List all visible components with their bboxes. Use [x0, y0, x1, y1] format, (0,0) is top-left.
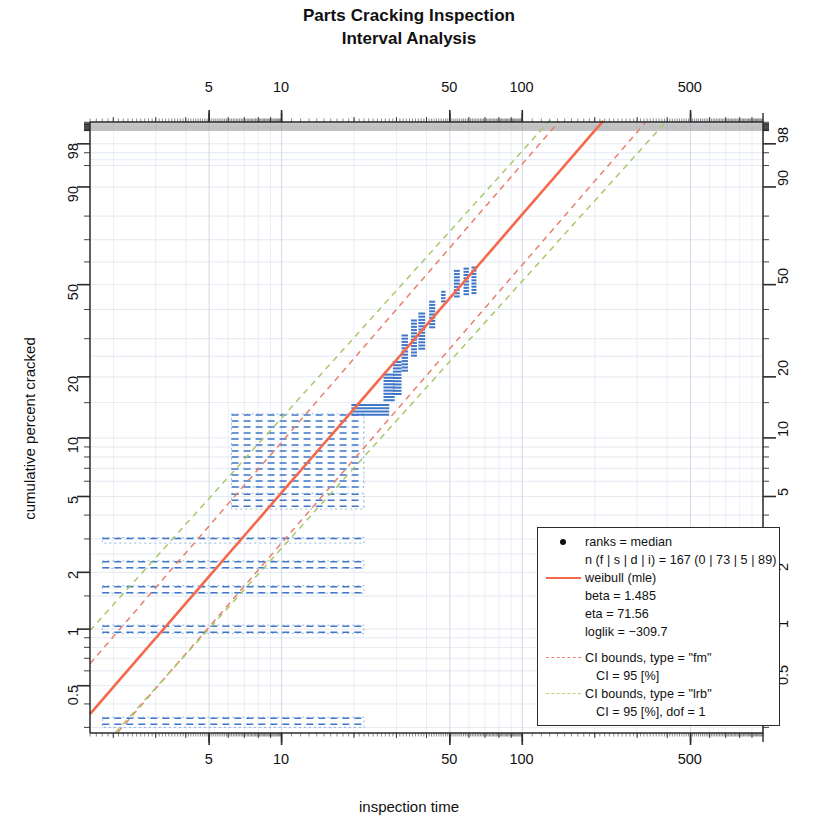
x-tick-label-top-10: 10: [273, 79, 289, 95]
legend-ranks-label: ranks = median: [585, 535, 672, 549]
y-tick-label-right-50: 50: [775, 229, 791, 284]
x-tick-label-top-500: 500: [678, 79, 702, 95]
y-tick-label-98: 98: [65, 143, 81, 198]
legend-loglik-label: loglik = −309.7: [585, 625, 668, 639]
legend-rows: ranks = median n (f | s | d | i) = 167 (…: [538, 528, 779, 725]
x-tick-label-top-100: 100: [509, 79, 533, 95]
x-tick-label-10: 10: [273, 751, 289, 767]
legend-sample-size-label: n (f | s | d | i) = 167 (0 | 73 | 5 | 89…: [585, 553, 776, 567]
legend-ci-fm-label: CI bounds, type = "fm": [585, 651, 712, 665]
y-tick-label-5: 5: [65, 496, 81, 551]
legend-ci-lrb-line-icon: [546, 693, 581, 694]
x-tick-label-top-50: 50: [441, 79, 457, 95]
legend-ci-fm-value: CI = 95 [%]: [596, 669, 659, 683]
legend-point-marker-icon: [560, 539, 566, 545]
y-tick-label-20: 20: [65, 376, 81, 431]
y-tick-label-right-5: 5: [775, 441, 791, 496]
x-tick-label-top-5: 5: [205, 79, 213, 95]
y-tick-label-10: 10: [65, 437, 81, 492]
x-tick-label-50: 50: [441, 751, 457, 767]
x-tick-label-500: 500: [678, 751, 702, 767]
y-tick-label-right-98: 98: [775, 88, 791, 143]
ci-bound-fm-upper: [90, 122, 558, 663]
legend-eta-label: eta = 71.56: [585, 607, 649, 621]
legend-fit-label: weibull (mle): [585, 571, 656, 585]
y-tick-label-0.5: 0.5: [65, 685, 81, 740]
y-tick-label-2: 2: [65, 571, 81, 626]
legend-ci-lrb-value: CI = 95 [%], dof = 1: [596, 705, 706, 719]
y-tick-label-1: 1: [65, 628, 81, 683]
legend-weibull-line-icon: [546, 577, 581, 579]
legend-ci-lrb-label: CI bounds, type = "lrb": [585, 687, 712, 701]
legend-ci-fm-line-icon: [546, 657, 581, 658]
x-tick-label-5: 5: [205, 751, 213, 767]
x-tick-label-100: 100: [509, 751, 533, 767]
weibull-plot-page: Parts Cracking Inspection Interval Analy…: [0, 0, 818, 827]
legend-beta-label: beta = 1.485: [585, 589, 656, 603]
weibull-fit-line: [90, 121, 603, 714]
y-tick-label-right-10: 10: [775, 382, 791, 437]
legend-box: ranks = median n (f | s | d | i) = 167 (…: [537, 527, 780, 726]
y-tick-label-right-20: 20: [775, 321, 791, 376]
y-tick-label-50: 50: [65, 284, 81, 339]
